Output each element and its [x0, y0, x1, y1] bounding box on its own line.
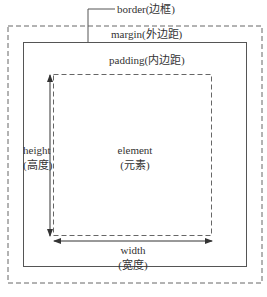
margin-label: margin(外边距) [111, 28, 182, 41]
border-label: border(边框) [117, 3, 175, 16]
width-label-cn: (宽度) [103, 259, 163, 272]
width-label-en: width [103, 244, 163, 257]
height-label-en: height [23, 144, 50, 157]
height-label: height (高度) [23, 144, 50, 172]
element-label-en: element [105, 144, 165, 157]
height-label-cn: (高度) [23, 159, 50, 172]
element-label: element (元素) [105, 144, 165, 172]
width-label: width (宽度) [103, 244, 163, 272]
padding-label: padding(内边距) [109, 54, 185, 67]
element-label-cn: (元素) [105, 159, 165, 172]
